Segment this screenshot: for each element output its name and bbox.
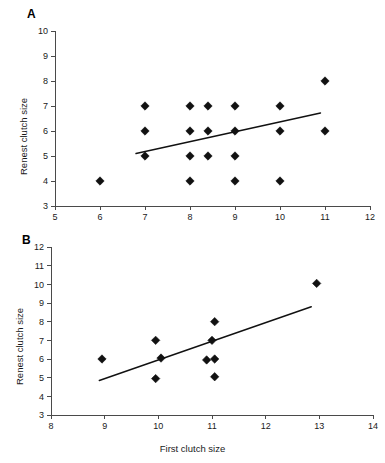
x-tick-label: 8 [187, 212, 192, 222]
axis-spines [51, 247, 373, 415]
data-point [231, 152, 239, 160]
x-tick-label: 11 [207, 421, 216, 431]
data-point [321, 127, 329, 135]
y-tick-label: 3 [43, 201, 48, 211]
panel-b: B Renest clutch size First clutch size 3… [0, 225, 385, 463]
data-point [98, 355, 106, 363]
x-tick-label: 6 [97, 212, 102, 222]
figure-container: A Renest clutch size 3456789105678910111… [0, 0, 385, 463]
x-tick-label: 12 [365, 212, 375, 222]
data-point [204, 152, 212, 160]
data-point [151, 336, 159, 344]
data-point [231, 177, 239, 185]
y-tick-label: 7 [43, 101, 48, 111]
data-point [312, 279, 320, 287]
y-tick-label: 9 [39, 298, 44, 308]
x-tick-label: 5 [52, 212, 57, 222]
y-tick-label: 12 [34, 242, 44, 252]
data-point [157, 354, 165, 362]
y-tick-label: 5 [43, 151, 48, 161]
data-point [276, 102, 284, 110]
data-point [141, 152, 149, 160]
data-point [276, 177, 284, 185]
data-point [186, 177, 194, 185]
data-point [276, 127, 284, 135]
regression-line [99, 307, 311, 381]
data-point [208, 336, 216, 344]
data-point [186, 102, 194, 110]
x-tick-label: 7 [142, 212, 147, 222]
y-tick-label: 3 [39, 410, 44, 420]
x-tick-label: 14 [368, 421, 378, 431]
data-point [231, 127, 239, 135]
data-point [141, 102, 149, 110]
y-tick-label: 11 [35, 261, 44, 271]
y-tick-label: 5 [39, 373, 44, 383]
y-tick-label: 8 [39, 317, 44, 327]
data-point [186, 152, 194, 160]
panel-b-plot: 3456789101112891011121314 [0, 225, 385, 463]
x-tick-label: 10 [275, 212, 285, 222]
data-point [210, 373, 218, 381]
regression-line [136, 113, 321, 154]
data-point [204, 102, 212, 110]
data-point [204, 127, 212, 135]
data-point [321, 77, 329, 85]
y-tick-label: 4 [39, 392, 44, 402]
y-tick-label: 8 [43, 76, 48, 86]
data-point [151, 374, 159, 382]
y-tick-label: 7 [39, 336, 44, 346]
x-tick-label: 9 [102, 421, 107, 431]
data-point [186, 127, 194, 135]
data-point [141, 127, 149, 135]
x-tick-label: 9 [232, 212, 237, 222]
y-tick-label: 6 [39, 354, 44, 364]
y-tick-label: 10 [34, 280, 44, 290]
panel-a-plot: 34567891056789101112 [0, 0, 385, 232]
y-tick-label: 4 [43, 176, 48, 186]
x-tick-label: 11 [320, 212, 329, 222]
x-tick-label: 12 [261, 421, 271, 431]
data-point [210, 317, 218, 325]
x-tick-label: 8 [48, 421, 53, 431]
data-point [210, 355, 218, 363]
y-tick-label: 9 [43, 51, 48, 61]
data-point [96, 177, 104, 185]
data-point [202, 356, 210, 364]
y-tick-label: 10 [38, 26, 48, 36]
x-tick-label: 10 [153, 421, 163, 431]
data-point [231, 102, 239, 110]
y-tick-label: 6 [43, 126, 48, 136]
x-tick-label: 13 [314, 421, 324, 431]
panel-a: A Renest clutch size 3456789105678910111… [0, 0, 385, 232]
